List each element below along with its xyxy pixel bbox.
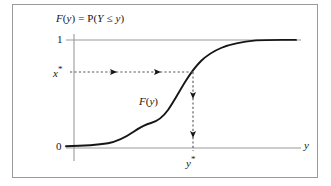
x-axis-label: y [304,140,309,151]
title-expression: F(y) = P(Y ≤ y) [56,13,124,24]
y-axis-tick-one: 1 [57,34,63,45]
y-axis-tick-zero: 0 [56,141,62,152]
quantile-marker-label: y* [186,155,195,169]
cdf-curve [66,40,296,146]
cdf-figure: F(y) = P(Y ≤ y) 1 0 y x* y* F(y) [0,0,331,186]
curve-label: F(y) [139,96,158,107]
probability-marker-label: x* [53,65,62,79]
plot-canvas [0,0,331,186]
